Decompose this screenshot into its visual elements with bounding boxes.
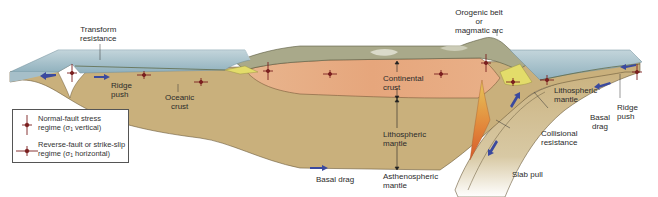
label-slab-pull: Slab pull [512, 170, 543, 179]
label-line: push [111, 90, 132, 99]
label-line: drag [590, 122, 610, 131]
legend-text-reverse-fault: Reverse-fault or strike-slip regime (σ1 … [38, 140, 125, 160]
label-line: push [617, 112, 638, 121]
label-line: Asthenospheric [383, 172, 438, 181]
label-basal-drag-right: Basal drag [590, 113, 610, 131]
label-line: Collisional [541, 129, 577, 138]
legend-text: horizontal) [73, 149, 110, 158]
legend-text: vertical) [73, 123, 101, 132]
legend-item-normal-fault: Normal-fault stress regime (σ1 vertical) [13, 112, 128, 136]
label-orogenic-belt: Orogenic belt or magmatic arc [455, 8, 503, 35]
legend-text: regime (σ [38, 123, 70, 132]
label-line: or [455, 17, 503, 26]
normal-fault-stress-icon [16, 114, 38, 136]
label-asthenospheric-mantle: Asthenospheric mantle [383, 172, 438, 190]
reverse-fault-stress-icon [16, 140, 38, 162]
label-line: mantle [383, 181, 438, 190]
label-line: Lithospheric [383, 130, 426, 139]
label-line: Orogenic belt [455, 8, 503, 17]
label-lithospheric-mantle-center: Lithospheric mantle [383, 130, 426, 148]
legend: Normal-fault stress regime (σ1 vertical)… [12, 109, 129, 163]
label-lithospheric-mantle-right: Lithospheric mantle [554, 86, 597, 104]
label-line: Oceanic [165, 93, 194, 102]
label-oceanic-crust: Oceanic crust [165, 93, 194, 111]
label-line: mantle [383, 139, 426, 148]
label-line: mantle [554, 95, 597, 104]
label-line: Lithospheric [554, 86, 597, 95]
label-continental-crust: Continental crust [383, 74, 423, 92]
label-ridge-push-left: Ridge push [111, 81, 132, 99]
label-line: Ridge [111, 81, 132, 90]
legend-item-reverse-fault: Reverse-fault or strike-slip regime (σ1 … [13, 138, 128, 162]
label-line: crust [165, 102, 194, 111]
legend-text-normal-fault: Normal-fault stress regime (σ1 vertical) [38, 114, 101, 134]
label-line: Ridge [617, 103, 638, 112]
label-line: Basal [590, 113, 610, 122]
legend-line: regime (σ1 horizontal) [38, 149, 125, 160]
label-ridge-push-right: Ridge push [617, 103, 638, 121]
label-collisional-resistance: Collisional resistance [541, 129, 577, 147]
label-line: Transform [80, 25, 116, 34]
label-line: crust [383, 83, 423, 92]
legend-line: regime (σ1 vertical) [38, 123, 101, 134]
label-basal-drag-center: Basal drag [316, 175, 354, 184]
legend-line: Normal-fault stress [38, 114, 101, 123]
label-transform-resistance: Transform resistance [80, 25, 116, 43]
legend-text: regime (σ [38, 149, 70, 158]
legend-line: Reverse-fault or strike-slip [38, 140, 125, 149]
label-line: magmatic arc [455, 26, 503, 35]
label-line: Continental [383, 74, 423, 83]
label-line: resistance [80, 34, 116, 43]
label-line: resistance [541, 138, 577, 147]
